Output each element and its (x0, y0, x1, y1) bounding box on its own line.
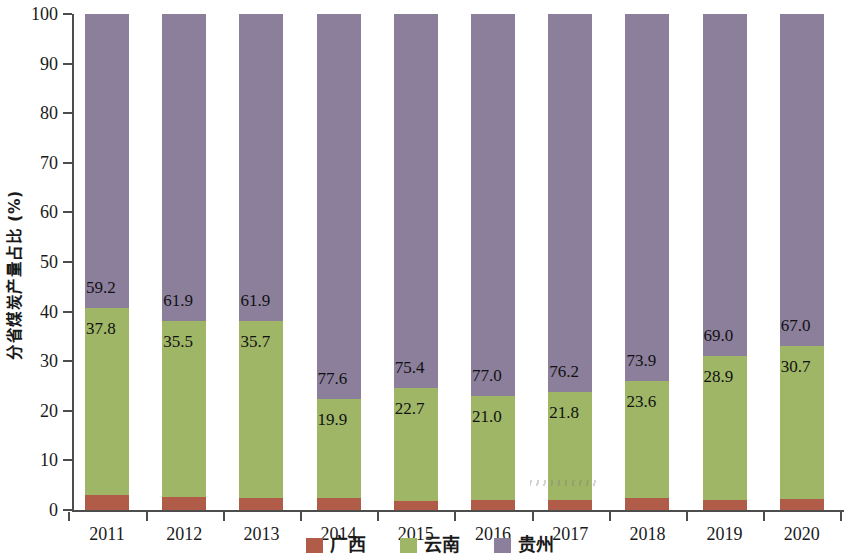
data-label-yunnan: 35.5 (163, 333, 193, 350)
bar-group[interactable] (780, 14, 824, 510)
bar-segment-guizhou[interactable] (162, 14, 206, 321)
bar-segment-guizhou[interactable] (317, 14, 361, 399)
bar-segment-guangxi[interactable] (471, 500, 515, 510)
data-label-yunnan: 21.0 (472, 408, 502, 425)
data-label-yunnan: 19.9 (318, 411, 348, 428)
legend-item[interactable]: 贵州 (494, 536, 554, 554)
legend-swatch (306, 538, 323, 553)
bar-group[interactable] (548, 14, 592, 510)
y-tick-label: 50 (16, 253, 58, 271)
bar-group[interactable] (394, 14, 438, 510)
bar-segment-guizhou[interactable] (703, 14, 747, 356)
y-tick-mark (63, 509, 72, 511)
data-label-guizhou: 76.2 (549, 363, 579, 380)
bar-segment-guangxi[interactable] (625, 498, 669, 510)
bar-group[interactable] (471, 14, 515, 510)
plot-area: 0102030405060708090100 20112012201320142… (72, 14, 844, 510)
y-tick-label: 10 (16, 451, 58, 469)
data-label-yunnan: 37.8 (86, 320, 116, 337)
x-tick-mark (532, 512, 534, 521)
x-tick-mark (68, 512, 70, 521)
legend-swatch (494, 538, 511, 553)
chart-legend: 广西云南贵州 (0, 536, 860, 554)
y-tick-mark (63, 311, 72, 313)
bar-group[interactable] (239, 14, 283, 510)
bar-segment-guizhou[interactable] (780, 14, 824, 346)
bar-segment-guizhou[interactable] (548, 14, 592, 392)
data-label-yunnan: 35.7 (240, 333, 270, 350)
y-axis-line (72, 14, 74, 511)
x-tick-mark (763, 512, 765, 521)
y-tick-label: 100 (16, 5, 58, 23)
y-tick-mark (63, 112, 72, 114)
y-tick-label: 30 (16, 352, 58, 370)
bar-segment-guangxi[interactable] (239, 498, 283, 510)
y-tick-mark (63, 360, 72, 362)
bar-segment-guizhou[interactable] (85, 14, 129, 308)
legend-swatch (400, 538, 417, 553)
data-label-yunnan: 22.7 (395, 400, 425, 417)
x-tick-mark (300, 512, 302, 521)
y-tick-label: 70 (16, 154, 58, 172)
x-tick-mark (609, 512, 611, 521)
bar-segment-guizhou[interactable] (471, 14, 515, 396)
data-label-guizhou: 77.0 (472, 367, 502, 384)
bar-segment-guangxi[interactable] (85, 495, 129, 510)
y-tick-mark (63, 410, 72, 412)
x-tick-mark (146, 512, 148, 521)
bar-segment-guizhou[interactable] (394, 14, 438, 388)
bar-group[interactable] (625, 14, 669, 510)
bar-group[interactable] (85, 14, 129, 510)
y-tick-label: 90 (16, 55, 58, 73)
y-tick-mark (63, 459, 72, 461)
data-label-guizhou: 73.9 (626, 352, 656, 369)
bar-segment-guangxi[interactable] (162, 497, 206, 510)
x-tick-mark (454, 512, 456, 521)
y-tick-mark (63, 13, 72, 15)
stacked-bar-chart: 分省煤炭产量占比 (%) 0102030405060708090100 2011… (0, 0, 860, 560)
bar-segment-guangxi[interactable] (317, 498, 361, 510)
y-tick-mark (63, 211, 72, 213)
bar-group[interactable] (162, 14, 206, 510)
data-label-guizhou: 75.4 (395, 359, 425, 376)
bar-segment-guangxi[interactable] (394, 501, 438, 510)
y-tick-label: 80 (16, 104, 58, 122)
data-label-guizhou: 67.0 (781, 317, 811, 334)
data-label-guizhou: 59.2 (86, 279, 116, 296)
data-label-yunnan: 23.6 (626, 393, 656, 410)
bar-segment-guangxi[interactable] (780, 499, 824, 510)
legend-item[interactable]: 广西 (306, 536, 366, 554)
data-label-guizhou: 61.9 (240, 292, 270, 309)
x-tick-mark (840, 512, 842, 521)
bar-group[interactable] (317, 14, 361, 510)
y-tick-mark (63, 261, 72, 263)
bar-segment-guangxi[interactable] (548, 500, 592, 510)
bar-segment-guangxi[interactable] (703, 500, 747, 510)
x-axis-line (72, 510, 844, 512)
bar-segment-guizhou[interactable] (239, 14, 283, 321)
y-tick-label: 20 (16, 402, 58, 420)
data-label-yunnan: 21.8 (549, 404, 579, 421)
data-label-yunnan: 28.9 (704, 368, 734, 385)
data-label-guizhou: 77.6 (318, 370, 348, 387)
legend-label: 贵州 (518, 536, 554, 554)
y-tick-label: 40 (16, 303, 58, 321)
legend-label: 广西 (330, 536, 366, 554)
bar-group[interactable] (703, 14, 747, 510)
y-tick-label: 0 (16, 501, 58, 519)
legend-label: 云南 (424, 536, 460, 554)
y-tick-mark (63, 162, 72, 164)
data-label-guizhou: 61.9 (163, 292, 193, 309)
x-tick-mark (377, 512, 379, 521)
data-label-yunnan: 30.7 (781, 358, 811, 375)
y-tick-mark (63, 63, 72, 65)
x-tick-mark (686, 512, 688, 521)
scan-artifact (530, 480, 600, 486)
x-tick-mark (223, 512, 225, 521)
legend-item[interactable]: 云南 (400, 536, 460, 554)
data-label-guizhou: 69.0 (704, 327, 734, 344)
bar-segment-guizhou[interactable] (625, 14, 669, 381)
y-tick-label: 60 (16, 203, 58, 221)
